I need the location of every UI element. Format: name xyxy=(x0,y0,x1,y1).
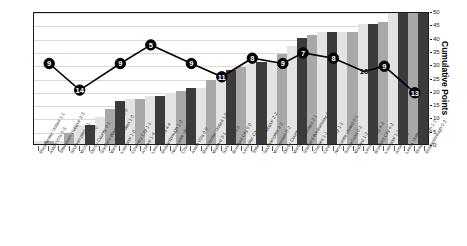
y-tick-mark xyxy=(430,12,432,13)
y-tick-mark xyxy=(430,52,432,53)
line-marker-label: 5 xyxy=(149,41,153,50)
y-tick-mark xyxy=(430,25,432,26)
line-marker-label: 9 xyxy=(382,62,386,71)
cumulative-points-chart: 91495911897810913 05101520253035404550 C… xyxy=(0,0,467,246)
line-marker-label: 9 xyxy=(47,59,51,68)
line-marker-label: 8 xyxy=(250,54,254,63)
line-marker-label: 10 xyxy=(360,67,368,76)
line-marker-label: 9 xyxy=(189,59,193,68)
line-marker-label: 9 xyxy=(281,59,285,68)
y-tick-mark xyxy=(430,92,432,93)
line-marker-label: 8 xyxy=(331,54,335,63)
line-marker-label: 7 xyxy=(301,49,305,58)
y-tick-mark xyxy=(430,65,432,66)
line-marker-label: 9 xyxy=(118,59,122,68)
line-marker-label: 13 xyxy=(411,89,419,98)
y-tick-mark xyxy=(430,105,432,106)
y-tick-mark xyxy=(430,39,432,40)
plot-area: 91495911897810913 xyxy=(33,12,429,145)
line-marker-label: 11 xyxy=(218,73,226,82)
x-axis-labels: Manchester United 1-1Aston Villa 0-3Tott… xyxy=(33,146,429,246)
y-tick-mark xyxy=(430,79,432,80)
y-axis-title-label: Cumulative Points xyxy=(440,41,450,115)
line-marker-label: 14 xyxy=(76,86,85,95)
